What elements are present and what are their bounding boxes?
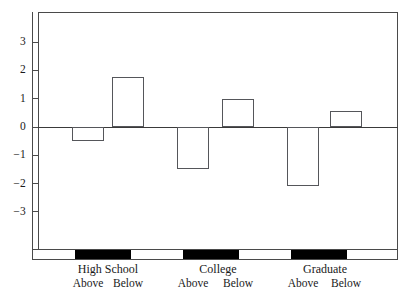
y-tick-mark (32, 70, 39, 71)
axis-segment (291, 250, 347, 259)
y-tick-label: 0 (0, 121, 26, 133)
y-tick-label: 1 (0, 93, 26, 105)
y-tick-label: −3 (0, 206, 26, 218)
bar (72, 127, 104, 141)
bar (287, 127, 319, 186)
y-tick-label: −1 (0, 149, 26, 161)
bar (177, 127, 209, 169)
y-tick-label: 3 (0, 36, 26, 48)
group-label: Graduate (265, 263, 385, 276)
group-label: High School (48, 263, 168, 276)
y-tick-mark (32, 98, 39, 99)
axis-segment (33, 250, 75, 259)
axis-segment (131, 250, 183, 259)
y-tick-mark (32, 183, 39, 184)
axis-segment (239, 250, 291, 259)
y-tick-mark (32, 42, 39, 43)
y-axis-spine (32, 12, 33, 255)
y-tick-label: −2 (0, 178, 26, 190)
axis-segment (183, 250, 239, 259)
bar-label: Below (98, 277, 158, 290)
y-tick-mark (32, 155, 39, 156)
bar-chart: 3210−1−2−3 High SchoolAboveBelowCollegeA… (0, 0, 408, 292)
group-label: College (158, 263, 278, 276)
bar-label: Below (208, 277, 268, 290)
bar (222, 99, 254, 127)
bar (330, 111, 362, 127)
y-tick-label: 2 (0, 64, 26, 76)
axis-segment (347, 250, 398, 259)
bar (112, 77, 144, 127)
bar-label: Below (316, 277, 376, 290)
segmented-axis-strip (32, 249, 398, 260)
y-tick-mark (32, 211, 39, 212)
axis-segment (75, 250, 131, 259)
